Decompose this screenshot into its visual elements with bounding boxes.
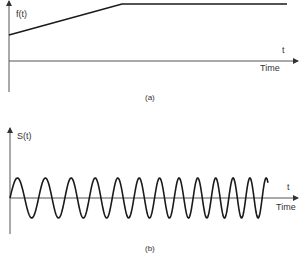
panel-a-frequency-curve [9,4,287,35]
panel-b-caption: (b) [145,245,155,253]
figure-canvas [0,0,304,259]
panel-b-t-label: t [287,183,290,192]
panel-a-time-label: Time [260,64,280,73]
panel-a [9,1,298,92]
panel-b-y-label: S(t) [17,132,32,141]
panel-b-time-label: Time [276,203,296,212]
panel-a-t-label: t [282,46,285,55]
panel-b [10,128,298,234]
panel-a-y-label: f(t) [16,10,27,19]
panel-a-caption: (a) [145,94,155,102]
